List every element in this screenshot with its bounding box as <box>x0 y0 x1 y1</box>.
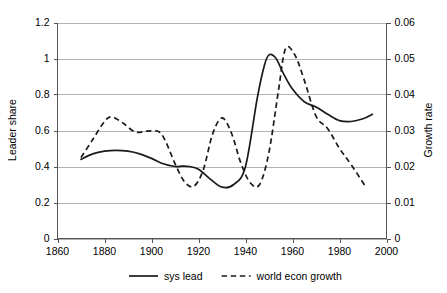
x-tick-label-3: 1920 <box>187 245 211 257</box>
y-tick-label-4: 0.8 <box>35 88 50 100</box>
y2-tick-label-0: 0 <box>395 232 401 244</box>
line-chart: 18601880190019201940196019802000 00.20.4… <box>0 0 447 293</box>
y-axis-tick-labels: 00.20.40.60.811.2 <box>35 16 50 244</box>
chart-container: 18601880190019201940196019802000 00.20.4… <box>0 0 447 293</box>
y2-tick-label-6: 0.06 <box>395 16 416 28</box>
x-tick-label-5: 1960 <box>281 245 305 257</box>
y2-tick-label-2: 0.02 <box>395 160 416 172</box>
series-layer <box>81 46 372 187</box>
y-tick-label-5: 1 <box>44 52 50 64</box>
x-tick-label-6: 1980 <box>328 245 352 257</box>
axis-lines <box>58 23 387 239</box>
x-tick-label-2: 1900 <box>140 245 164 257</box>
y-tick-label-0: 0 <box>44 232 50 244</box>
tick-marks <box>54 24 391 243</box>
chart-legend: sys leadworld econ growth <box>129 270 342 282</box>
x-tick-label-7: 2000 <box>375 245 399 257</box>
secondary-y-axis-title: Growth rate <box>422 102 434 157</box>
y-axis-title: Leader share <box>6 99 18 161</box>
x-axis-tick-labels: 18601880190019201940196019802000 <box>46 245 399 257</box>
y2-tick-label-1: 0.01 <box>395 196 416 208</box>
y-tick-label-2: 0.4 <box>35 160 50 172</box>
x-tick-label-1: 1880 <box>93 245 117 257</box>
legend-label-1: world econ growth <box>256 270 342 282</box>
gridlines <box>58 24 387 240</box>
y-tick-label-3: 0.6 <box>35 124 50 136</box>
x-tick-label-0: 1860 <box>46 245 70 257</box>
legend-label-0: sys lead <box>164 270 203 282</box>
secondary-y-axis-tick-labels: 00.010.020.030.040.050.06 <box>395 16 416 244</box>
x-tick-label-4: 1940 <box>234 245 258 257</box>
series-line-world-econ-growth <box>81 46 365 187</box>
y2-tick-label-5: 0.05 <box>395 52 416 64</box>
y2-tick-label-3: 0.03 <box>395 124 416 136</box>
y-tick-label-6: 1.2 <box>35 16 50 28</box>
y-tick-label-1: 0.2 <box>35 196 50 208</box>
y2-tick-label-4: 0.04 <box>395 88 416 100</box>
